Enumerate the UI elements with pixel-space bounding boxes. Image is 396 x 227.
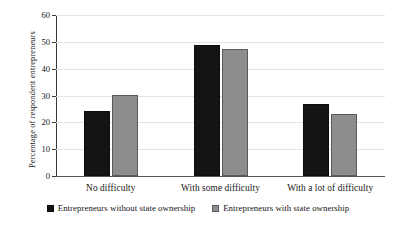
gridline xyxy=(56,69,385,70)
x-category-label: No difficulty xyxy=(86,183,135,193)
x-category-label: With a lot of difficulty xyxy=(287,183,373,193)
legend-item: Entrepreneurs without state ownership xyxy=(47,203,195,213)
bar xyxy=(84,111,110,176)
gridline xyxy=(56,42,385,43)
bar xyxy=(112,95,138,176)
chart-legend: Entrepreneurs without state ownershipEnt… xyxy=(0,203,396,213)
legend-item: Entrepreneurs with state ownership xyxy=(212,203,349,213)
y-tick-label: 20 xyxy=(41,117,50,127)
bar xyxy=(331,114,357,176)
y-tick-label: 40 xyxy=(41,64,50,74)
y-tick-label: 30 xyxy=(41,91,50,101)
plot-area xyxy=(56,15,385,176)
bar xyxy=(194,45,220,176)
gridline xyxy=(56,96,385,97)
bar xyxy=(303,104,329,176)
legend-item-label: Entrepreneurs without state ownership xyxy=(58,203,195,213)
x-category-label: With some difficulty xyxy=(181,183,260,193)
y-tick-label: 10 xyxy=(41,144,50,154)
legend-item-label: Entrepreneurs with state ownership xyxy=(223,203,349,213)
bar-chart-figure: Percentage of respondent entrepreneurs 0… xyxy=(0,0,396,227)
gridline xyxy=(56,15,385,16)
y-tick-label: 0 xyxy=(46,171,50,181)
bar xyxy=(222,49,248,176)
y-tick-label: 60 xyxy=(41,10,50,20)
axis-baseline xyxy=(56,176,385,177)
y-axis-title: Percentage of respondent entrepreneurs xyxy=(28,14,37,186)
y-tick-label: 50 xyxy=(41,37,50,47)
light-square-swatch xyxy=(212,205,219,212)
dark-square-swatch xyxy=(47,205,54,212)
